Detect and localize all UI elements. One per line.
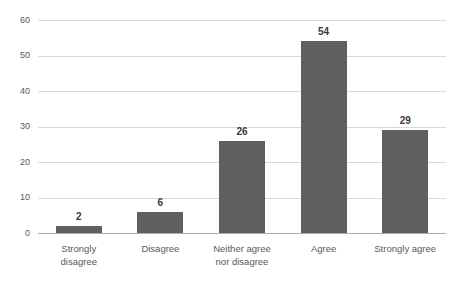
plot-area: 26265429 bbox=[38, 20, 446, 233]
bar-value-label: 29 bbox=[382, 115, 428, 126]
bar-value-label: 6 bbox=[137, 197, 183, 208]
bar-strongly-disagree bbox=[56, 226, 102, 233]
x-category-label: Disagree bbox=[141, 242, 179, 255]
x-axis-category-labels: Strongly disagreeDisagreeNeither agree n… bbox=[38, 242, 446, 268]
x-category-cell: Neither agree nor disagree bbox=[201, 242, 283, 268]
x-category-cell: Agree bbox=[283, 242, 365, 268]
bar-neither-agree-nor-disagree bbox=[219, 141, 265, 233]
gridline bbox=[38, 56, 446, 57]
y-tick-label: 60 bbox=[0, 15, 30, 26]
y-tick-label: 50 bbox=[0, 50, 30, 61]
y-tick-label: 40 bbox=[0, 86, 30, 97]
x-category-label: Strongly disagree bbox=[43, 242, 115, 268]
bar-strongly-agree bbox=[382, 130, 428, 233]
x-category-cell: Strongly disagree bbox=[38, 242, 120, 268]
x-axis-line bbox=[38, 233, 446, 234]
x-category-label: Neither agree nor disagree bbox=[206, 242, 278, 268]
x-category-cell: Disagree bbox=[120, 242, 202, 268]
bar-agree bbox=[301, 41, 347, 233]
gridline bbox=[38, 91, 446, 92]
gridline bbox=[38, 20, 446, 21]
y-tick-label: 0 bbox=[0, 228, 30, 239]
x-category-label: Agree bbox=[311, 242, 336, 255]
x-category-label: Strongly agree bbox=[374, 242, 436, 255]
y-tick-label: 20 bbox=[0, 157, 30, 168]
x-category-cell: Strongly agree bbox=[364, 242, 446, 268]
bar-value-label: 2 bbox=[56, 211, 102, 222]
bar-disagree bbox=[137, 212, 183, 233]
y-tick-label: 30 bbox=[0, 121, 30, 132]
bar-value-label: 26 bbox=[219, 126, 265, 137]
bar-chart: 26265429 Strongly disagreeDisagreeNeithe… bbox=[0, 0, 462, 283]
y-tick-label: 10 bbox=[0, 192, 30, 203]
bar-value-label: 54 bbox=[301, 26, 347, 37]
